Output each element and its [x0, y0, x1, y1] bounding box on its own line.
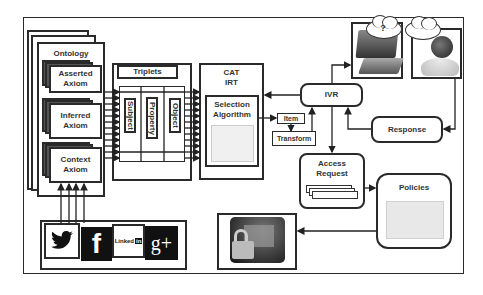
connector-lines: [0, 0, 483, 295]
